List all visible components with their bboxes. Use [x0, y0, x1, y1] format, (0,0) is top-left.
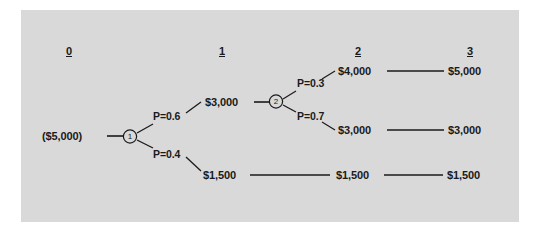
- value-stage3-bottom: $1,500: [447, 169, 480, 181]
- value-stage3-middle: $3,000: [448, 124, 481, 136]
- node-1-label: 1: [123, 130, 137, 144]
- value-stage1-upper: $3,000: [205, 96, 238, 108]
- stage-header-3: 3: [467, 45, 473, 57]
- root-value-label: ($5,000): [42, 130, 82, 142]
- stage-header-1: 1: [219, 45, 225, 57]
- probability-label-0-6: P=0.6: [153, 110, 180, 122]
- diagram-canvas: 0 1 2 3 ($5,000) 1 2 P=0.6 P=0.4 P=0.3 P…: [0, 0, 540, 233]
- edge-node1-lower-a: [137, 140, 153, 148]
- value-stage2-middle: $3,000: [338, 124, 371, 136]
- tree-edges: [0, 0, 540, 233]
- edge-node1-upper-b: [186, 102, 201, 113]
- value-stage2-top: $4,000: [338, 65, 371, 77]
- stage-header-0: 0: [66, 45, 72, 57]
- edge-node2-lower-a: [283, 105, 296, 112]
- edge-node1-upper-a: [137, 124, 153, 133]
- edge-node1-lower-b: [186, 157, 201, 171]
- probability-label-0-7: P=0.7: [297, 110, 324, 122]
- edge-node2-upper-a: [283, 91, 296, 99]
- value-stage1-lower: $1,500: [203, 169, 236, 181]
- probability-label-0-4: P=0.4: [153, 148, 180, 160]
- node-2-label: 2: [269, 95, 283, 109]
- edge-node2-lower-b: [322, 122, 335, 130]
- value-stage2-bottom: $1,500: [336, 169, 369, 181]
- stage-header-2: 2: [355, 45, 361, 57]
- probability-label-0-3: P=0.3: [297, 77, 324, 89]
- value-stage3-top: $5,000: [448, 65, 481, 77]
